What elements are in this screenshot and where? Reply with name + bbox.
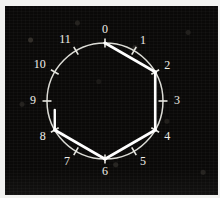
tick-label-1: 1: [140, 33, 146, 47]
diagram-plate: 01234567891011: [5, 6, 218, 195]
node-marker-layer: [53, 41, 157, 160]
tick-label-2: 2: [164, 58, 170, 72]
circle-outline: [47, 43, 163, 159]
tick-label-11: 11: [59, 32, 71, 46]
tick-label-9: 9: [30, 93, 36, 107]
chord-layer: [55, 43, 155, 159]
tick-label-6: 6: [102, 164, 108, 178]
tick-mark-5: [132, 147, 137, 155]
node-marker-6: [103, 157, 106, 160]
chord-0-2: [105, 43, 155, 72]
tick-label-7: 7: [64, 154, 70, 168]
tick-mark-11: [74, 47, 79, 55]
tick-mark-1: [132, 47, 137, 55]
tick-label-0: 0: [102, 22, 108, 36]
tick-label-4: 4: [164, 129, 170, 143]
node-marker-8: [53, 128, 56, 131]
figure-page: 01234567891011: [0, 0, 220, 198]
node-marker-2: [154, 70, 157, 73]
tick-label-5: 5: [140, 154, 146, 168]
tick-mark-10: [51, 70, 59, 75]
tick-label-8: 8: [40, 129, 46, 143]
tick-mark-7: [74, 147, 79, 155]
tick-label-10: 10: [34, 57, 46, 71]
chord-4-6: [105, 130, 155, 159]
pitch-class-circle-diagram: 01234567891011: [5, 6, 218, 195]
chord-6-8: [55, 130, 105, 159]
tick-label-3: 3: [174, 93, 180, 107]
tick-mark-layer: [43, 39, 168, 164]
node-marker-0: [103, 41, 106, 44]
circle-outline-layer: [47, 43, 163, 159]
node-marker-4: [154, 128, 157, 131]
